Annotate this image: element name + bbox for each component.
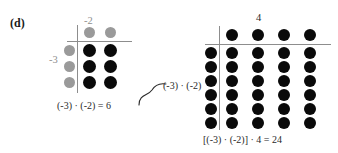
- black-dot: [226, 47, 238, 59]
- black-dot: [205, 47, 217, 59]
- black-dot: [83, 76, 96, 89]
- black-dot: [278, 103, 290, 115]
- gray-dot: [105, 27, 116, 38]
- black-dot: [304, 61, 316, 73]
- black-dot: [226, 61, 238, 73]
- black-dot: [205, 61, 217, 73]
- black-dot: [226, 75, 238, 87]
- black-dot: [252, 29, 264, 41]
- annotation-text: (-3) · (-2): [163, 80, 201, 91]
- black-dot: [252, 103, 264, 115]
- right-array-horizontal-axis: [205, 44, 331, 45]
- black-dot: [252, 61, 264, 73]
- black-dot: [304, 89, 316, 101]
- black-dot: [226, 103, 238, 115]
- black-dot: [83, 44, 96, 57]
- right-array-vertical-axis: [219, 26, 220, 130]
- black-dot: [278, 29, 290, 41]
- black-dot: [226, 29, 238, 41]
- black-dot: [83, 60, 96, 73]
- gray-dot: [64, 77, 75, 88]
- black-dot: [304, 103, 316, 115]
- black-dot: [304, 117, 316, 129]
- black-dot: [304, 47, 316, 59]
- black-dot: [304, 29, 316, 41]
- black-dot: [226, 89, 238, 101]
- black-dot: [278, 61, 290, 73]
- black-dot: [104, 76, 117, 89]
- black-dot: [205, 89, 217, 101]
- black-dot: [226, 117, 238, 129]
- left-array-equation: (-3) · (-2) = 6: [57, 100, 111, 111]
- black-dot: [205, 117, 217, 129]
- black-dot: [252, 47, 264, 59]
- black-dot: [104, 60, 117, 73]
- left-array-vertical-axis: [77, 25, 78, 93]
- left-array-side-label: -3: [49, 54, 58, 65]
- right-array-equation: [(-3) · (-2)] · 4 = 24: [203, 134, 282, 145]
- panel-label: (d): [10, 16, 25, 31]
- black-dot: [252, 75, 264, 87]
- black-dot: [278, 117, 290, 129]
- black-dot: [304, 75, 316, 87]
- black-dot: [205, 75, 217, 87]
- black-dot: [252, 89, 264, 101]
- gray-dot: [64, 61, 75, 72]
- black-dot: [278, 89, 290, 101]
- figure-canvas: (d) -2 -3 (-3) · (-2) = 6 (-3) · (-2) 4: [0, 0, 338, 153]
- right-array-top-label: 4: [256, 12, 261, 23]
- black-dot: [252, 117, 264, 129]
- gray-dot: [64, 45, 75, 56]
- black-dot: [205, 103, 217, 115]
- black-dot: [104, 44, 117, 57]
- black-dot: [278, 47, 290, 59]
- black-dot: [278, 75, 290, 87]
- gray-dot: [84, 27, 95, 38]
- left-array-top-label: -2: [84, 15, 93, 26]
